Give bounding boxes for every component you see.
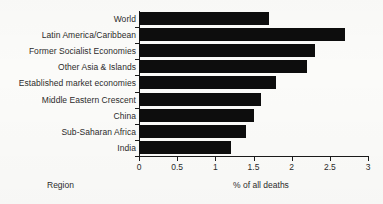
bar xyxy=(139,76,276,89)
x-axis-tick-label: 1.5 xyxy=(248,162,260,172)
x-axis-tick-mark xyxy=(139,157,140,161)
y-axis-tick-label: Established market economies xyxy=(4,75,136,91)
bar-row xyxy=(139,27,368,43)
x-axis-tick-label: 1 xyxy=(213,162,218,172)
bar-row xyxy=(139,108,368,124)
x-axis-tick-label: 2 xyxy=(289,162,294,172)
y-axis-tick-label: Middle Eastern Crescent xyxy=(4,92,136,108)
x-axis-ticks: 00.511.522.53 xyxy=(139,157,369,175)
bar xyxy=(139,28,345,41)
x-axis-tick-label: 2.5 xyxy=(324,162,336,172)
bar-row xyxy=(139,92,368,108)
y-axis-tick-label: World xyxy=(4,11,136,27)
bar xyxy=(139,141,231,154)
x-axis-tick-label: 0 xyxy=(137,162,142,172)
y-axis-tick-label: Sub-Saharan Africa xyxy=(4,124,136,140)
bar-row xyxy=(139,43,368,59)
bar xyxy=(139,93,261,106)
x-axis-title: % of all deaths xyxy=(196,180,326,190)
x-axis-tick-mark xyxy=(368,157,369,161)
bar xyxy=(139,12,269,25)
y-axis-tick-label: Former Socialist Economies xyxy=(4,43,136,59)
bar xyxy=(139,44,315,57)
x-axis-tick-mark xyxy=(254,157,255,161)
bar-row xyxy=(139,140,368,156)
y-axis-category-labels: WorldLatin America/CaribbeanFormer Socia… xyxy=(3,11,136,156)
bar-row xyxy=(139,124,368,140)
chart-figure: WorldLatin America/CaribbeanFormer Socia… xyxy=(0,0,383,204)
bar xyxy=(139,60,307,73)
y-axis-tick-label: China xyxy=(4,108,136,124)
x-axis-tick-label: 0.5 xyxy=(171,162,183,172)
x-axis-tick-mark xyxy=(177,157,178,161)
y-axis-title: Region xyxy=(47,180,74,190)
x-axis-tick-mark xyxy=(330,157,331,161)
plot-area xyxy=(139,11,368,156)
y-axis-tick-label: Other Asia & Islands xyxy=(4,59,136,75)
bar xyxy=(139,125,246,138)
y-axis-tick-label: India xyxy=(4,140,136,156)
bar xyxy=(139,109,254,122)
x-axis-tick-label: 3 xyxy=(366,162,371,172)
y-axis-tick-label: Latin America/Caribbean xyxy=(4,27,136,43)
bar-row xyxy=(139,75,368,91)
bar-row xyxy=(139,11,368,27)
x-axis-tick-mark xyxy=(215,157,216,161)
bar-row xyxy=(139,59,368,75)
x-axis-tick-mark xyxy=(292,157,293,161)
